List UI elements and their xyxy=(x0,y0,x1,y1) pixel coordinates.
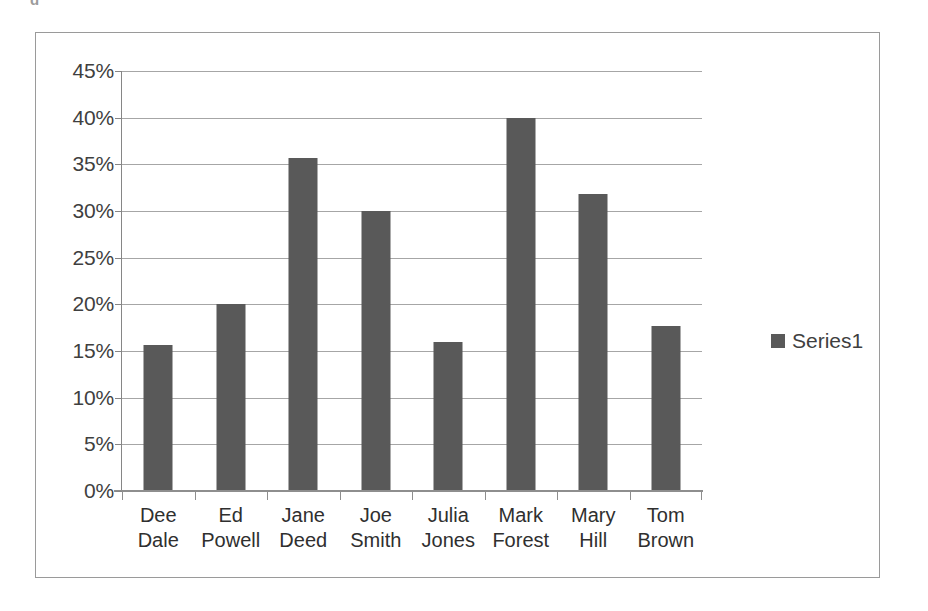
x-tick-mark xyxy=(630,491,631,500)
x-category-label: EdPowell xyxy=(195,503,268,553)
y-tick-mark xyxy=(115,211,122,212)
x-category-label-line1: Ed xyxy=(195,503,268,528)
bar-mary-hill[interactable] xyxy=(579,194,608,491)
x-category-label-line1: Julia xyxy=(412,503,485,528)
x-tick-mark xyxy=(195,491,196,500)
y-axis-tick-labels: 45%40%35%30%25%20%15%10%5%0% xyxy=(36,33,122,579)
y-tick-label: 20% xyxy=(73,292,114,316)
x-axis-tick-marks xyxy=(122,491,702,501)
bar-jane-deed[interactable] xyxy=(289,158,318,491)
x-category-label-line2: Powell xyxy=(195,528,268,553)
x-tick-mark xyxy=(412,491,413,500)
bar-ed-powell[interactable] xyxy=(216,304,245,491)
x-category-label: JuliaJones xyxy=(412,503,485,553)
y-tick-label: 40% xyxy=(73,106,114,130)
x-axis-category-labels: DeeDaleEdPowellJaneDeedJoeSmithJuliaJone… xyxy=(122,503,702,569)
y-tick-label: 5% xyxy=(84,432,114,456)
y-tick-mark xyxy=(115,304,122,305)
legend-label-series1: Series1 xyxy=(792,329,863,353)
x-category-label: MaryHill xyxy=(557,503,630,553)
bar-slot xyxy=(557,71,630,491)
x-category-label-line1: Mark xyxy=(485,503,558,528)
x-category-label-line1: Joe xyxy=(340,503,413,528)
x-category-label-line1: Mary xyxy=(557,503,630,528)
y-tick-mark xyxy=(115,444,122,445)
bar-series-series1 xyxy=(122,71,702,491)
x-category-label-line2: Jones xyxy=(412,528,485,553)
bar-tom-brown[interactable] xyxy=(651,326,680,491)
x-category-label-line2: Hill xyxy=(557,528,630,553)
y-tick-mark xyxy=(115,164,122,165)
legend-swatch-series1 xyxy=(771,334,785,348)
x-category-label-line2: Deed xyxy=(267,528,340,553)
x-category-label-line2: Dale xyxy=(122,528,195,553)
bar-slot xyxy=(485,71,558,491)
y-tick-label: 10% xyxy=(73,386,114,410)
y-tick-label: 30% xyxy=(73,199,114,223)
chart-legend: Series1 xyxy=(771,329,863,353)
y-tick-mark xyxy=(115,491,122,492)
x-category-label: JaneDeed xyxy=(267,503,340,553)
bar-julia-jones[interactable] xyxy=(434,342,463,491)
bar-slot xyxy=(195,71,268,491)
x-category-label-line1: Tom xyxy=(630,503,703,528)
x-category-label: DeeDale xyxy=(122,503,195,553)
x-category-label-line1: Dee xyxy=(122,503,195,528)
x-tick-mark xyxy=(557,491,558,500)
bar-slot xyxy=(267,71,340,491)
x-category-label: TomBrown xyxy=(630,503,703,553)
y-tick-mark xyxy=(115,398,122,399)
y-tick-mark xyxy=(115,118,122,119)
cut-off-text-sliver: g xyxy=(30,0,150,5)
plot-area xyxy=(122,71,702,491)
bar-slot xyxy=(412,71,485,491)
x-category-label: MarkForest xyxy=(485,503,558,553)
x-tick-mark xyxy=(485,491,486,500)
y-tick-mark xyxy=(115,351,122,352)
x-tick-mark xyxy=(701,491,702,500)
y-tick-mark xyxy=(115,71,122,72)
bar-mark-forest[interactable] xyxy=(506,118,535,491)
bar-slot xyxy=(122,71,195,491)
bar-dee-dale[interactable] xyxy=(144,345,173,491)
y-tick-label: 0% xyxy=(84,479,114,503)
x-tick-mark xyxy=(122,491,123,500)
x-category-label-line1: Jane xyxy=(267,503,340,528)
x-category-label-line2: Smith xyxy=(340,528,413,553)
x-tick-mark xyxy=(340,491,341,500)
y-tick-label: 15% xyxy=(73,339,114,363)
chart-plot-wrapper: 45%40%35%30%25%20%15%10%5%0% DeeDaleEdPo… xyxy=(36,33,881,579)
chart-frame: 45%40%35%30%25%20%15%10%5%0% DeeDaleEdPo… xyxy=(35,32,880,578)
x-category-label-line2: Brown xyxy=(630,528,703,553)
bar-joe-smith[interactable] xyxy=(361,211,390,491)
y-tick-label: 45% xyxy=(73,59,114,83)
y-tick-label: 35% xyxy=(73,152,114,176)
x-tick-mark xyxy=(267,491,268,500)
bar-slot xyxy=(630,71,703,491)
x-category-label-line2: Forest xyxy=(485,528,558,553)
bar-slot xyxy=(340,71,413,491)
y-tick-label: 25% xyxy=(73,246,114,270)
x-category-label: JoeSmith xyxy=(340,503,413,553)
y-tick-mark xyxy=(115,258,122,259)
